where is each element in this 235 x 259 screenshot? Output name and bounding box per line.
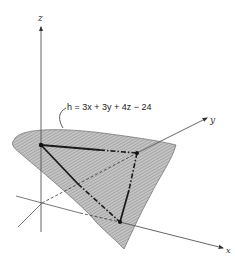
vertex-y-intercept: [135, 151, 139, 155]
y-axis-label: y: [209, 115, 216, 125]
x-axis-back: [16, 196, 42, 203]
plane-equation: h = 3x + 3y + 4z − 24: [67, 102, 152, 112]
x-axis-front: [120, 222, 223, 248]
x-axis-mid: [42, 203, 80, 213]
y-axis-lower: [18, 203, 42, 227]
plane-region: [12, 130, 176, 249]
x-axis-label: x: [226, 246, 231, 255]
plane-diagram: z y x h = 3x + 3y + 4z − 24: [0, 0, 235, 259]
equation-leader: [60, 108, 66, 128]
vertex-z-intercept: [39, 143, 43, 147]
z-axis-label: z: [37, 13, 43, 23]
vertex-x-intercept: [118, 220, 122, 224]
